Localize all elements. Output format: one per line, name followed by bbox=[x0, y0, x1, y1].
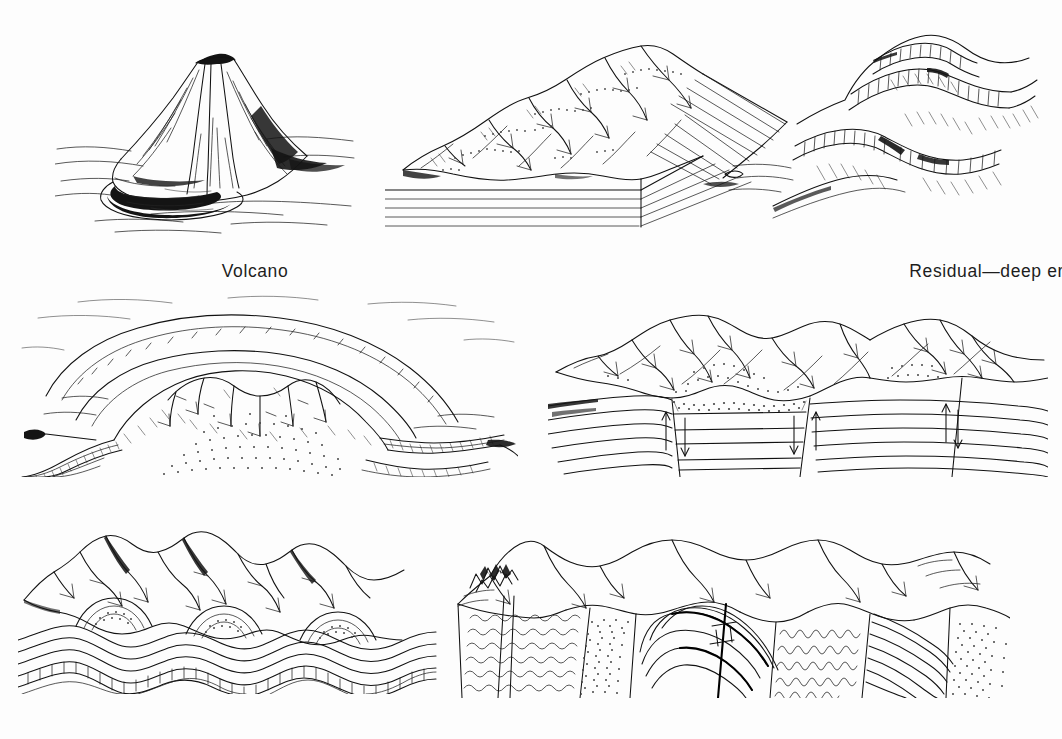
caption-volcano: Volcano bbox=[110, 261, 400, 282]
caption-residual: Residual—deep erosion of undeformed beds bbox=[810, 261, 1062, 282]
fold-illustration bbox=[18, 522, 438, 694]
residual-erosion-illustration bbox=[385, 18, 1045, 238]
panel-complex: Complex bbox=[440, 518, 1010, 698]
volcano-illustration bbox=[55, 18, 355, 238]
panel-fold: Fold bbox=[18, 522, 438, 694]
dome-illustration bbox=[18, 292, 518, 477]
panel-residual: Residual—deep erosion of undeformed beds bbox=[385, 18, 1045, 238]
landform-figure: Volcano bbox=[0, 0, 1062, 739]
panel-dome: Dome—uparching of beds bbox=[18, 292, 518, 477]
complex-structure-illustration bbox=[440, 518, 1010, 698]
fault-illustration bbox=[548, 292, 1048, 477]
panel-fault: Fault bbox=[548, 292, 1048, 477]
panel-volcano: Volcano bbox=[55, 18, 355, 238]
